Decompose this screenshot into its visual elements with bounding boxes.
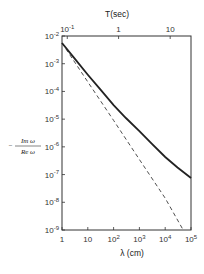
y-axis-title: − Im ω Re ω [8,137,41,156]
x-tick-label: 10 [83,235,92,244]
y-tick-label: 10-5 [45,114,60,125]
y-tick-label: 10-8 [45,197,60,208]
ylabel-denominator: Re ω [20,148,35,156]
top-tick-label: 1 [116,25,121,34]
plot-frame [62,36,191,230]
y-tick-label: 10-4 [45,86,60,97]
y-tick-label: 10-2 [45,31,60,42]
top-tick-label: 10 [166,25,175,34]
x-tick-label: 103 [133,234,146,245]
solid-curve [62,43,191,178]
y-tick-label: 10-9 [45,225,60,236]
y-tick-label: 10-7 [45,169,60,180]
x-tick-label: 102 [107,234,120,245]
bottom-axis-title: λ (cm) [120,248,144,258]
x-tick-label: 105 [185,234,198,245]
plot-area: 11010210310410510-910-810-710-610-510-41… [45,24,198,245]
y-tick-label: 10-3 [45,58,60,69]
ylabel-sign: − [8,142,13,150]
y-tick-label: 10-6 [45,141,60,152]
top-axis-title: T(sec) [105,9,129,19]
x-tick-label: 1 [60,235,65,244]
ylabel-numerator: Im ω [20,137,35,145]
chart: 11010210310410510-910-810-710-610-510-41… [0,0,204,274]
dashed-curve [62,43,183,230]
top-tick-label: 10-1 [60,24,75,35]
x-tick-label: 104 [159,234,172,245]
